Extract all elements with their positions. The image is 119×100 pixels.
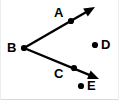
point-dot-a (68, 18, 74, 24)
point-dot-c (71, 65, 77, 71)
figure-bottom-border (0, 99, 119, 100)
point-label-a: A (54, 6, 63, 19)
point-dot-d (92, 42, 98, 48)
figure-left-border (0, 0, 1, 100)
point-dot-e (78, 83, 84, 89)
figure-right-border (118, 0, 119, 100)
point-dot-b (21, 45, 27, 51)
point-label-d: D (101, 38, 110, 51)
geometry-figure: A B C D E (0, 0, 119, 100)
point-label-c: C (54, 67, 63, 80)
point-label-e: E (87, 79, 96, 92)
point-label-b: B (7, 41, 16, 54)
